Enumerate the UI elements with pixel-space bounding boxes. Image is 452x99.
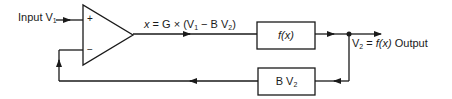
junction-dot xyxy=(347,32,352,37)
plus-sign: + xyxy=(87,14,93,24)
fx-block-label: f(x) xyxy=(257,30,315,41)
feedback-block-label: B V2 xyxy=(258,76,315,88)
minus-sign: − xyxy=(87,45,93,55)
equation-label: x = G × (V1 − B V2) xyxy=(144,19,236,31)
output-label: V2 = f(x) Output xyxy=(352,38,428,50)
input-label: Input V1 xyxy=(18,12,57,24)
